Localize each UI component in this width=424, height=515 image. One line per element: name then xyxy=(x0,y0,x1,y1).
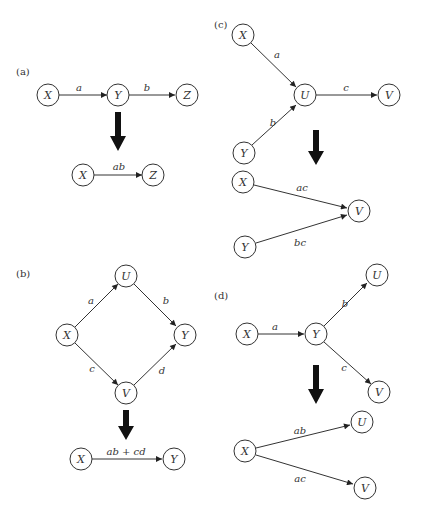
node-d-x: X xyxy=(236,323,258,345)
node-d-v: V xyxy=(368,381,390,403)
node-c-u: U xyxy=(294,84,316,106)
node-c-v-reduced: V xyxy=(348,200,370,222)
node-d-y: Y xyxy=(305,323,327,345)
edge-b-v-y: d xyxy=(134,344,176,385)
node-a-z-reduced: Z xyxy=(142,164,164,186)
node-d-v-reduced: V xyxy=(354,477,376,499)
node-a-z: Z xyxy=(176,84,198,106)
svg-text:V: V xyxy=(361,482,370,495)
edge-c-x-v-reduced: ac xyxy=(254,182,347,208)
panel-label-a: (a) xyxy=(16,66,30,77)
node-b-x: X xyxy=(56,324,78,346)
panel-a: (a) a b X Y Z ab X Z xyxy=(16,66,198,186)
svg-text:V: V xyxy=(355,205,364,218)
svg-text:X: X xyxy=(238,176,248,189)
svg-text:b: b xyxy=(342,298,348,309)
svg-text:ac: ac xyxy=(296,182,308,193)
panel-d: (d) a b c X Y U V ab ac X U V xyxy=(214,264,390,499)
edge-d-x-u-reduced: ab xyxy=(256,425,350,448)
edge-a-x-z-reduced: ab xyxy=(94,161,142,175)
svg-text:ab: ab xyxy=(294,425,306,436)
edge-c-y-u: b xyxy=(252,105,296,145)
panel-label-d: (d) xyxy=(214,290,228,301)
node-b-u: U xyxy=(115,265,137,287)
svg-text:b: b xyxy=(270,117,276,128)
svg-text:c: c xyxy=(341,362,347,373)
node-b-y-reduced: Y xyxy=(163,448,185,470)
transform-arrow-b-icon xyxy=(118,410,134,440)
svg-text:U: U xyxy=(372,269,382,282)
edge-b-u-y: b xyxy=(134,284,176,326)
node-c-x: X xyxy=(232,24,254,46)
transform-arrow-a-icon xyxy=(110,112,126,151)
node-c-v: V xyxy=(378,84,400,106)
edge-a-x-y: a xyxy=(59,82,107,95)
node-b-y: Y xyxy=(174,324,196,346)
node-c-y-reduced: Y xyxy=(234,236,256,258)
svg-text:b: b xyxy=(144,82,150,93)
svg-text:V: V xyxy=(385,89,394,102)
edge-c-y-v-reduced: bc xyxy=(256,215,347,248)
svg-text:V: V xyxy=(122,387,131,400)
svg-text:ab + cd: ab + cd xyxy=(106,446,145,457)
edge-b-x-u: a xyxy=(75,284,118,327)
node-d-u-reduced: U xyxy=(351,411,373,433)
svg-text:X: X xyxy=(43,89,53,102)
panel-label-b: (b) xyxy=(16,268,30,279)
panel-label-c: (c) xyxy=(214,19,228,30)
panel-b: (b) a b c d X U V Y ab + cd X Y xyxy=(16,265,196,470)
svg-text:c: c xyxy=(343,82,349,93)
svg-text:U: U xyxy=(357,416,367,429)
edge-d-x-v-reduced: ac xyxy=(256,455,353,484)
svg-text:Z: Z xyxy=(182,89,191,102)
svg-text:X: X xyxy=(242,328,252,341)
svg-text:bc: bc xyxy=(294,237,306,248)
svg-text:U: U xyxy=(300,89,310,102)
edge-b-x-v: c xyxy=(75,343,118,385)
node-b-x-reduced: X xyxy=(70,448,92,470)
svg-text:b: b xyxy=(163,295,169,306)
svg-text:X: X xyxy=(76,453,86,466)
edge-d-y-v: c xyxy=(324,342,371,384)
node-a-x-reduced: X xyxy=(72,164,94,186)
edge-d-x-y: a xyxy=(258,321,304,334)
edge-d-y-u: b xyxy=(324,283,367,326)
transform-arrow-d-icon xyxy=(308,365,324,404)
node-b-v: V xyxy=(115,382,137,404)
svg-text:d: d xyxy=(159,365,165,376)
svg-text:X: X xyxy=(240,445,250,458)
svg-text:a: a xyxy=(76,82,82,93)
node-a-x: X xyxy=(37,84,59,106)
panel-c: (c) a b c X Y U V ac bc X Y V xyxy=(214,19,400,258)
svg-text:a: a xyxy=(88,295,94,306)
svg-text:U: U xyxy=(121,270,131,283)
edge-c-u-v: c xyxy=(316,82,377,95)
node-d-u: U xyxy=(366,264,388,286)
edge-c-x-u: a xyxy=(251,43,296,87)
svg-text:V: V xyxy=(375,386,384,399)
svg-text:ac: ac xyxy=(294,473,306,484)
svg-text:a: a xyxy=(274,49,280,60)
node-a-y: Y xyxy=(107,84,129,106)
svg-text:X: X xyxy=(62,329,72,342)
node-c-x-reduced: X xyxy=(232,171,254,193)
node-d-x-reduced: X xyxy=(234,440,256,462)
svg-text:a: a xyxy=(272,321,278,332)
edge-b-x-y-reduced: ab + cd xyxy=(92,446,162,459)
edge-a-y-z: b xyxy=(129,82,175,95)
path-diagram-figure: (a) a b X Y Z ab X Z (c) a b xyxy=(0,0,424,515)
svg-text:X: X xyxy=(238,29,248,42)
svg-text:c: c xyxy=(89,363,95,374)
transform-arrow-c-icon xyxy=(308,130,324,165)
node-c-y: Y xyxy=(233,142,255,164)
svg-text:Z: Z xyxy=(148,169,157,182)
svg-text:X: X xyxy=(78,169,88,182)
svg-text:ab: ab xyxy=(113,161,125,172)
